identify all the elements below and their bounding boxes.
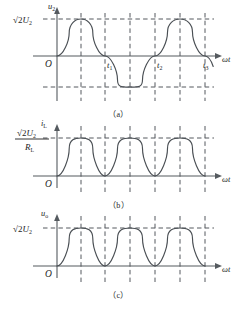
svg-text:√2U2: √2U2 [13, 224, 32, 235]
svg-text:√2U2: √2U2 [13, 15, 32, 26]
panel-b-y-axis-arrow [54, 124, 60, 131]
panel-a-chart: u2 ωt O √2U2 t1 t2 t3 [0, 0, 237, 106]
panel-b-x-axis-label: ωt [222, 175, 231, 184]
panel-c-y-axis-arrow [54, 214, 60, 221]
panel-b-amplitude-fraction: √2U2 RL [15, 128, 49, 153]
waveform-figure: u2 ωt O √2U2 t1 t2 t3 （a） [0, 0, 237, 311]
panel-b-x-axis-arrow [215, 173, 222, 179]
panel-c-amplitude-label: √2U2 [13, 224, 32, 235]
panel-a-origin-label: O [45, 59, 52, 69]
panel-c-waveform-rectified [57, 228, 205, 266]
panel-a-amplitude-label: √2U2 [13, 15, 32, 26]
svg-text:√2U2: √2U2 [17, 128, 36, 139]
panel-a-x-axis-arrow [215, 53, 222, 59]
panel-b-chart: iL ωt O √2U2 RL [0, 118, 237, 198]
panel-c-x-axis-arrow [215, 263, 222, 269]
panel-b-origin-label: O [45, 179, 52, 189]
panel-a-x-axis-label: ωt [222, 55, 231, 64]
panel-a-tick-t2: t2 [157, 60, 162, 71]
svg-text:RL: RL [24, 142, 35, 153]
panel-c-caption: （c） [0, 288, 237, 300]
panel-a-y-axis-label: u2 [48, 2, 55, 12]
panel-c-origin-label: O [45, 269, 52, 279]
panel-a-waveform-sine [57, 19, 213, 87]
panel-c-x-axis-label: ωt [222, 265, 231, 274]
panel-b-waveform-rectified [57, 138, 205, 176]
panel-b-y-axis-label: iL [41, 119, 47, 129]
panel-c-y-axis-label: uo [41, 209, 48, 219]
panel-c-chart: uo ωt O √2U2 [0, 208, 237, 288]
panel-a-tick-t3: t3 [203, 60, 208, 71]
